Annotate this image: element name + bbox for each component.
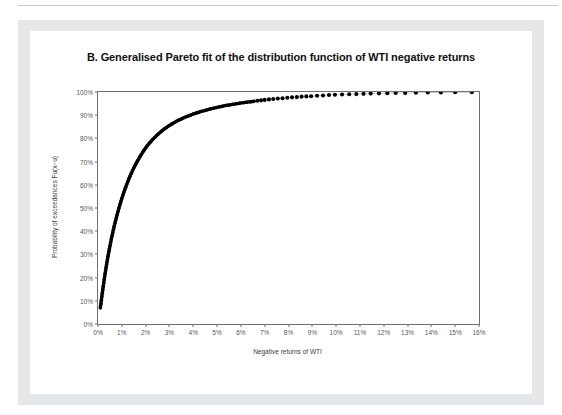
x-axis-tick-label: 7% [260,329,269,336]
y-axis-tick-mark [95,92,98,93]
y-axis-tick-label: 40% [80,228,93,235]
y-axis-tick-label: 10% [80,297,93,304]
x-axis-tick-label: 8% [284,329,293,336]
x-axis-tick-label: 12% [377,329,390,336]
x-axis-tick-mark [312,324,313,327]
plot-area: 0%10%20%30%40%50%60%70%80%90%100%0%1%2%3… [97,91,480,325]
x-axis-tick-label: 14% [425,329,438,336]
y-axis-tick-mark [95,138,98,139]
y-axis-tick-mark [95,115,98,116]
x-axis-tick-label: 15% [449,329,462,336]
y-axis-tick-label: 80% [80,135,93,142]
x-axis-tick-label: 3% [165,329,174,336]
x-axis-tick-mark [169,324,170,327]
x-axis-tick-mark [455,324,456,327]
y-axis-tick-label: 30% [80,251,93,258]
chart-title: B. Generalised Pareto fit of the distrib… [30,51,532,63]
y-axis-title: Probability of exceedances Fu(x−u) [51,156,58,258]
x-axis-tick-mark [479,324,480,327]
x-axis-title: Negative returns of WTI [97,348,478,355]
x-axis-tick-label: 16% [472,329,485,336]
x-axis-tick-label: 5% [212,329,221,336]
figure-panel: B. Generalised Pareto fit of the distrib… [30,31,532,394]
x-axis-tick-label: 13% [401,329,414,336]
y-axis-tick-label: 90% [80,112,93,119]
y-axis-tick-mark [95,208,98,209]
x-axis-tick-mark [407,324,408,327]
y-axis-tick-label: 20% [80,274,93,281]
y-axis-tick-mark [95,254,98,255]
y-axis-tick-mark [95,277,98,278]
x-axis-tick-mark [336,324,337,327]
y-axis-tick-label: 70% [80,158,93,165]
x-axis-tick-mark [145,324,146,327]
x-axis-tick-mark [121,324,122,327]
page-top-rule [18,5,558,6]
x-axis-tick-label: 10% [330,329,343,336]
x-axis-tick-mark [217,324,218,327]
y-axis-tick-label: 50% [80,205,93,212]
x-axis-tick-label: 9% [308,329,317,336]
figure-mat-frame: B. Generalised Pareto fit of the distrib… [18,20,544,405]
y-axis-tick-label: 60% [80,181,93,188]
y-axis-tick-mark [95,300,98,301]
x-axis-tick-mark [288,324,289,327]
x-axis-tick-mark [98,324,99,327]
x-axis-tick-mark [383,324,384,327]
x-axis-tick-mark [193,324,194,327]
x-axis-tick-mark [359,324,360,327]
x-axis-tick-label: 6% [236,329,245,336]
x-axis-tick-label: 4% [189,329,198,336]
y-axis-tick-mark [95,231,98,232]
y-axis-tick-mark [95,161,98,162]
y-axis-tick-label: 0% [84,321,93,328]
y-axis-tick-label: 100% [76,89,93,96]
scatter-plot-canvas [98,92,479,324]
x-axis-tick-mark [264,324,265,327]
x-axis-tick-mark [240,324,241,327]
y-axis-tick-mark [95,184,98,185]
x-axis-tick-label: 2% [141,329,150,336]
x-axis-tick-label: 0% [93,329,102,336]
x-axis-tick-label: 11% [354,329,367,336]
x-axis-tick-mark [431,324,432,327]
x-axis-tick-label: 1% [117,329,126,336]
